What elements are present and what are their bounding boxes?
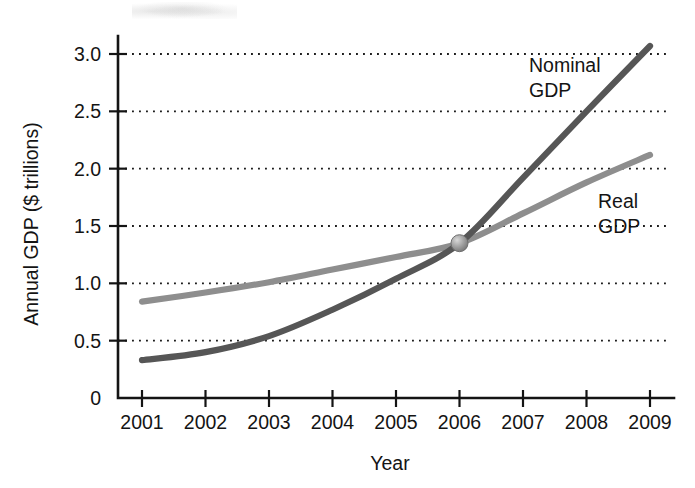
x-axis-tick-labels: 200120022003200420052006200720082009 [120, 411, 671, 433]
annotation-layer [451, 235, 468, 252]
chart-container: 00.51.01.52.02.53.0 20012002200320042005… [0, 0, 695, 488]
y-tick-label-0: 0 [90, 387, 101, 409]
series-inline-labels: NominalGDPRealGDP [529, 54, 640, 237]
series-label-line2: GDP [598, 215, 640, 237]
y-tick-label-1.0: 1.0 [74, 272, 101, 294]
series-label-line1: Nominal [529, 54, 601, 76]
axes [118, 36, 674, 398]
x-tick-label-2005: 2005 [374, 411, 418, 433]
intersection-marker [451, 235, 468, 252]
y-tick-label-2.5: 2.5 [74, 100, 101, 122]
x-tick-label-2004: 2004 [311, 411, 355, 433]
y-tick-label-3.0: 3.0 [74, 43, 101, 65]
x-tick-label-2008: 2008 [565, 411, 608, 433]
x-tick-label-2009: 2009 [628, 411, 671, 433]
series-layer [142, 46, 650, 360]
axis-lines [118, 36, 674, 398]
gdp-line-chart: 00.51.01.52.02.53.0 20012002200320042005… [0, 0, 695, 488]
y-axis-title: Annual GDP ($ trillions) [20, 122, 42, 325]
y-tick-label-0.5: 0.5 [74, 330, 101, 352]
y-tick-label-2.0: 2.0 [74, 158, 101, 180]
series-label-real-gdp: RealGDP [598, 190, 640, 237]
y-axis-tick-labels: 00.51.01.52.02.53.0 [74, 43, 101, 409]
series-label-line1: Real [598, 190, 638, 212]
x-tick-label-2003: 2003 [247, 411, 290, 433]
x-tick-label-2006: 2006 [438, 411, 481, 433]
series-line-nominal-gdp [142, 46, 650, 360]
y-tick-label-1.5: 1.5 [74, 215, 101, 237]
x-tick-label-2002: 2002 [184, 411, 227, 433]
gridlines [118, 54, 670, 341]
x-tick-label-2001: 2001 [120, 411, 163, 433]
series-label-nominal-gdp: NominalGDP [529, 54, 601, 101]
x-axis-title: Year [370, 452, 410, 474]
series-label-line2: GDP [529, 79, 571, 101]
x-tick-label-2007: 2007 [501, 411, 544, 433]
